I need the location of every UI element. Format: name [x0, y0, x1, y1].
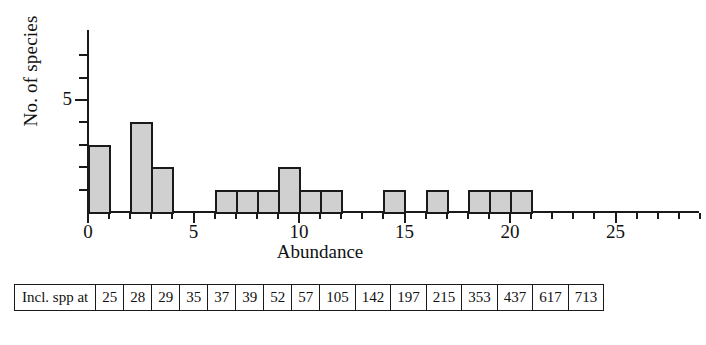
table-cell: 353 [462, 285, 498, 311]
table-cell: 142 [355, 285, 391, 311]
y-axis-label: No. of species [20, 0, 42, 146]
x-tick-label: 20 [490, 221, 530, 243]
table-cell: 197 [391, 285, 427, 311]
table-cell: 35 [180, 285, 208, 311]
table-cell: 215 [426, 285, 462, 311]
table-cell: 37 [208, 285, 236, 311]
table-cell: 713 [568, 285, 604, 311]
bar [215, 190, 238, 214]
x-tick-label: 0 [68, 221, 108, 243]
bar [383, 190, 406, 214]
x-tick-label: 10 [279, 221, 319, 243]
y-tick-label: 5 [42, 88, 72, 110]
x-tick-minor [572, 213, 574, 219]
x-tick-minor [678, 213, 680, 219]
x-tick-minor [636, 213, 638, 219]
inclusive-species-table: Incl. spp at 252829353739525710514219721… [14, 284, 604, 311]
x-tick-minor [593, 213, 595, 219]
table-cell: 29 [152, 285, 180, 311]
bar [489, 190, 512, 214]
bar [320, 190, 343, 214]
y-tick-minor [79, 144, 88, 146]
x-tick-label: 5 [174, 221, 214, 243]
table-cell: 39 [236, 285, 264, 311]
x-axis-label: Abundance [220, 241, 420, 263]
x-tick-label: 15 [385, 221, 425, 243]
bar [151, 167, 174, 214]
bar [257, 190, 280, 214]
bar [426, 190, 449, 214]
table-row: Incl. spp at 252829353739525710514219721… [15, 285, 604, 311]
table-cell: 437 [497, 285, 533, 311]
bar [88, 145, 111, 214]
table-cell: 25 [96, 285, 124, 311]
y-tick-minor [79, 189, 88, 191]
table-row-header: Incl. spp at [15, 285, 96, 311]
plot-area: No. of species Abundance 5 0510152025 [0, 0, 706, 270]
y-tick-major [75, 99, 88, 101]
x-tick-minor [699, 213, 701, 219]
x-tick-minor [657, 213, 659, 219]
bar [510, 190, 533, 214]
table-cell: 617 [533, 285, 569, 311]
table-cell: 52 [264, 285, 292, 311]
x-tick-minor [361, 213, 363, 219]
table-cell: 28 [124, 285, 152, 311]
x-tick-minor [551, 213, 553, 219]
bar [236, 190, 259, 214]
table-cell: 57 [292, 285, 320, 311]
bar [130, 122, 153, 214]
y-tick-minor [79, 166, 88, 168]
table-cell: 105 [320, 285, 356, 311]
bar [299, 190, 322, 214]
y-tick-minor [79, 121, 88, 123]
x-tick-label: 25 [596, 221, 636, 243]
y-tick-minor [79, 54, 88, 56]
figure-histogram-abundance: No. of species Abundance 5 0510152025 In… [0, 0, 706, 345]
y-tick-minor [79, 77, 88, 79]
bar [468, 190, 491, 214]
bar [278, 167, 301, 214]
